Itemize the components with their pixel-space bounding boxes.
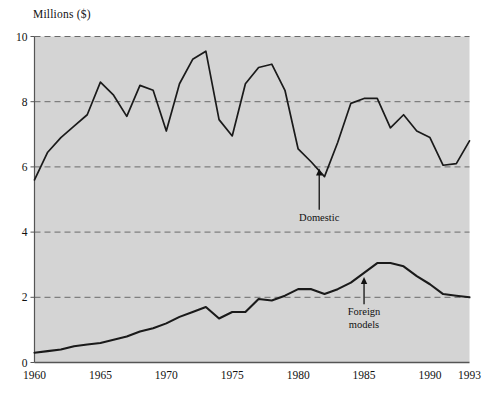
x-tick-label: 1975 <box>221 369 244 381</box>
x-tick-label: 1965 <box>89 369 112 381</box>
y-tick-labels-group: 0246810 <box>16 31 35 369</box>
y-tick-label: 10 <box>16 31 28 43</box>
x-tick-label: 1980 <box>287 369 310 381</box>
annotation-label: Domestic <box>299 212 340 223</box>
x-tick-labels-group: 19601965197019751980198519901993 <box>23 369 481 381</box>
x-tick-label: 1993 <box>458 369 481 381</box>
x-tick-label: 1990 <box>418 369 441 381</box>
y-tick-label: 6 <box>22 161 28 173</box>
y-tick-label: 8 <box>22 96 28 108</box>
annotation-label: models <box>349 319 379 330</box>
annotation-label: Foreign <box>348 306 381 317</box>
y-tick-label: 0 <box>22 357 28 369</box>
y-tick-label: 2 <box>22 291 28 303</box>
line-chart-plot: 0246810 19601965197019751980198519901993… <box>0 0 488 398</box>
chart-container: Millions ($) 0246810 1960196519701975198… <box>0 0 488 398</box>
x-tick-label: 1960 <box>23 369 46 381</box>
y-tick-label: 4 <box>22 226 28 238</box>
x-tick-label: 1970 <box>155 369 178 381</box>
x-tick-label: 1985 <box>353 369 376 381</box>
